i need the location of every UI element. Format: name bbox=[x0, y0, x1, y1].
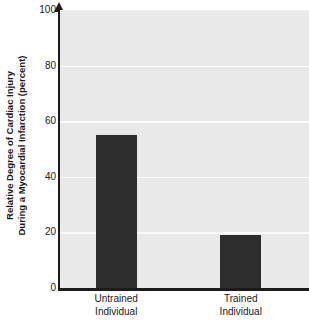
plot-area bbox=[60, 10, 309, 288]
y-tick-label-0: 0 bbox=[28, 283, 56, 293]
bar-1 bbox=[220, 235, 261, 288]
x-category-label-1: TrainedIndividual bbox=[179, 293, 304, 318]
bar-chart-figure: Relative Degree of Cardiac Injury During… bbox=[0, 0, 309, 327]
y-axis-title-line-1: Relative Degree of Cardiac Injury bbox=[4, 56, 16, 236]
x-category-label-0: UntrainedIndividual bbox=[54, 293, 179, 318]
y-tick-label-100: 100 bbox=[28, 5, 56, 15]
gridline-60 bbox=[60, 121, 309, 123]
y-axis-tick-labels: 020406080100 bbox=[28, 0, 56, 291]
x-category-label-1-line-2: Individual bbox=[179, 306, 304, 319]
y-tick-label-40: 40 bbox=[28, 172, 56, 182]
bar-0 bbox=[96, 135, 137, 288]
x-category-label-0-line-1: Untrained bbox=[54, 293, 179, 306]
y-tick-label-80: 80 bbox=[28, 61, 56, 71]
y-axis-title: Relative Degree of Cardiac Injury During… bbox=[0, 0, 30, 291]
y-tick-label-20: 20 bbox=[28, 227, 56, 237]
y-tick-label-60: 60 bbox=[28, 116, 56, 126]
x-category-label-0-line-2: Individual bbox=[54, 306, 179, 319]
gridline-80 bbox=[60, 66, 309, 68]
x-axis-line bbox=[58, 288, 309, 291]
x-category-label-1-line-1: Trained bbox=[179, 293, 304, 306]
x-axis-category-labels: UntrainedIndividualTrainedIndividual bbox=[60, 293, 309, 327]
y-axis-title-line-2: During a Myocardial Infarction (percent) bbox=[15, 56, 27, 236]
